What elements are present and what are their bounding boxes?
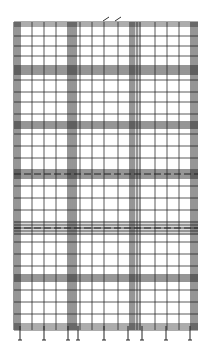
dashed-centerlines xyxy=(14,174,198,228)
top-marker xyxy=(115,17,121,21)
top-marker xyxy=(103,17,109,21)
grid-svg xyxy=(0,0,208,358)
grid-drawing-canvas xyxy=(0,0,208,358)
horizontal-grid-lines xyxy=(14,22,198,330)
top-markers xyxy=(103,17,121,21)
